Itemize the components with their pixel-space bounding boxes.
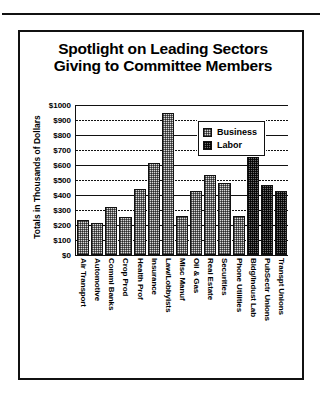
x-label-slot: Air Transport (76, 255, 90, 363)
y-axis-tick-label: $500 (53, 176, 71, 185)
x-axis-tick-label: Phone Utilities (234, 258, 243, 312)
y-axis-tick-label: $700 (53, 146, 71, 155)
bar-slot (147, 105, 161, 255)
x-label-slot: Crop Prod (118, 255, 132, 363)
x-label-slot: Misc Manuf (175, 255, 189, 363)
chart-title: Spotlight on Leading Sectors Giving to C… (20, 40, 306, 74)
x-axis-tick-label: Real Estate (206, 258, 215, 300)
bar-slot (133, 105, 147, 255)
plot-area: $1000$900$800$700$600$500$400$300$200$10… (76, 105, 288, 255)
bar[interactable] (204, 175, 216, 255)
legend-item-labor: Labor (203, 139, 257, 151)
bar-slot (90, 105, 104, 255)
x-axis-tick-label: Law/Lobbyists (163, 258, 172, 312)
x-label-slot: PubSectr Unions (260, 255, 274, 363)
x-label-slot: Automotive (90, 255, 104, 363)
bar[interactable] (77, 220, 89, 255)
y-axis-tick-label: $300 (53, 206, 71, 215)
x-axis-tick-label: Bldg/Indust Lab (248, 258, 257, 317)
legend-item-business: Business (203, 126, 257, 138)
x-label-slot: Transpt Unions (274, 255, 288, 363)
chart-legend: Business Labor (198, 121, 265, 156)
bar-slot (76, 105, 90, 255)
y-axis-tick-label: $400 (53, 191, 71, 200)
bar-slot (161, 105, 175, 255)
x-axis-tick-label: Air Transport (79, 258, 88, 307)
labor-swatch-icon (203, 141, 212, 150)
x-axis-tick-label: PubSectr Unions (262, 258, 271, 321)
x-axis-tick-label: Automotive (93, 258, 102, 301)
y-axis-tick-label: $0 (62, 251, 71, 260)
x-label-slot: Insurance (147, 255, 161, 363)
x-label-slot: Law/Lobbyists (161, 255, 175, 363)
chart-frame: Spotlight on Leading Sectors Giving to C… (18, 30, 304, 380)
bar[interactable] (190, 191, 202, 256)
y-axis-tick-label: $200 (53, 221, 71, 230)
bar[interactable] (91, 223, 103, 255)
bar[interactable] (176, 216, 188, 255)
legend-label-labor: Labor (217, 140, 242, 150)
x-label-slot: Securities (217, 255, 231, 363)
chart-title-line2: Giving to Committee Members (20, 57, 306, 74)
x-label-slot: Phone Utilities (232, 255, 246, 363)
bar-slot (274, 105, 288, 255)
x-axis-tick-labels: Air TransportAutomotiveComml BanksCrop P… (76, 255, 288, 363)
bar[interactable] (247, 156, 259, 255)
x-axis-tick-label: Comml Banks (107, 258, 116, 310)
x-axis-tick-label: Insurance (149, 258, 158, 295)
x-label-slot: Oil & Gas (189, 255, 203, 363)
top-horizontal-rule (2, 13, 320, 15)
bar[interactable] (218, 183, 230, 255)
x-label-slot: Comml Banks (104, 255, 118, 363)
legend-label-business: Business (217, 127, 257, 137)
x-label-slot: Real Estate (203, 255, 217, 363)
bar[interactable] (162, 113, 174, 256)
bar[interactable] (134, 189, 146, 255)
bar[interactable] (233, 216, 245, 255)
x-axis-tick-label: Crop Prod (121, 258, 130, 296)
bar[interactable] (119, 217, 131, 255)
bar[interactable] (148, 163, 160, 255)
x-axis-tick-label: Transpt Unions (277, 258, 286, 315)
y-axis-tick-label: $100 (53, 236, 71, 245)
y-axis-tick-label: $900 (53, 116, 71, 125)
x-label-slot: Health Prof (133, 255, 147, 363)
x-axis-tick-label: Oil & Gas (192, 258, 201, 293)
bar-slot (175, 105, 189, 255)
x-axis-tick-label: Securities (220, 258, 229, 295)
bar[interactable] (105, 207, 117, 255)
bar[interactable] (261, 185, 273, 256)
y-axis-title: Totals in Thousands of Dollars (32, 107, 42, 247)
bar[interactable] (275, 191, 287, 256)
y-axis-tick-label: $1000 (49, 101, 71, 110)
y-axis-tick-label: $800 (53, 131, 71, 140)
x-axis-tick-label: Health Prof (135, 258, 144, 300)
bar-slot (118, 105, 132, 255)
x-axis-tick-label: Misc Manuf (178, 258, 187, 301)
x-label-slot: Bldg/Indust Lab (246, 255, 260, 363)
chart-title-line1: Spotlight on Leading Sectors (58, 40, 268, 57)
bar-slot (104, 105, 118, 255)
business-swatch-icon (203, 128, 212, 137)
y-axis-tick-label: $600 (53, 161, 71, 170)
